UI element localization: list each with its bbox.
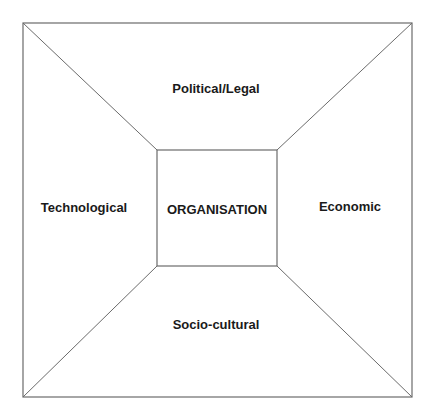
center-label: ORGANISATION bbox=[167, 203, 267, 216]
segment-left-label: Technological bbox=[41, 201, 127, 214]
connector-top-left bbox=[23, 23, 157, 150]
segment-top-label: Political/Legal bbox=[172, 82, 259, 95]
connector-bottom-right bbox=[277, 266, 412, 397]
connector-bottom-left bbox=[23, 266, 157, 397]
segment-right-label: Economic bbox=[319, 200, 381, 213]
connector-top-right bbox=[277, 23, 412, 150]
segment-bottom-label: Socio-cultural bbox=[173, 318, 260, 331]
